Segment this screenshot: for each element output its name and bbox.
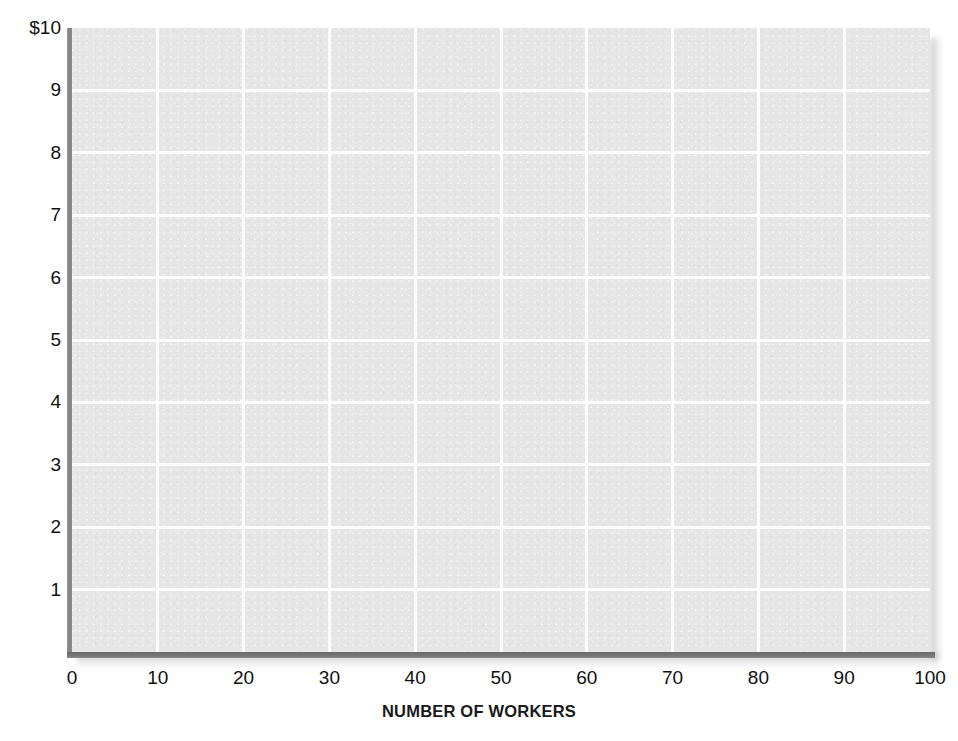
gridline-vertical	[156, 28, 159, 652]
x-axis-tick-label: 0	[32, 668, 112, 687]
y-axis-tick-label: 3	[1, 455, 61, 474]
y-axis-title: WAGE RATE (dollars per hour)	[0, 0, 34, 741]
y-axis-tick-label: 9	[1, 80, 61, 99]
y-axis-tick-label: 7	[1, 205, 61, 224]
x-axis-tick-label: 70	[633, 668, 713, 687]
x-axis-tick-label: 40	[375, 668, 455, 687]
x-axis-tick-label: 20	[204, 668, 284, 687]
x-axis-tick-label: 30	[289, 668, 369, 687]
x-axis-tick-label: 50	[461, 668, 541, 687]
y-axis-tick-label: 5	[1, 330, 61, 349]
gridline-vertical	[500, 28, 503, 652]
x-axis-tick-label: 60	[547, 668, 627, 687]
gridline-vertical	[585, 28, 588, 652]
gridline-vertical	[414, 28, 417, 652]
y-axis-line	[67, 28, 72, 653]
gridline-vertical	[671, 28, 674, 652]
plot-area[interactable]	[72, 28, 930, 652]
x-axis-tick-label: 80	[718, 668, 798, 687]
x-axis-tick-label: 90	[804, 668, 884, 687]
gridline-vertical	[242, 28, 245, 652]
y-axis-tick-label: 1	[1, 580, 61, 599]
gridline-vertical	[843, 28, 846, 652]
y-axis-tick-label: $10	[1, 18, 61, 37]
plot-shadow-right	[930, 38, 944, 658]
y-axis-tick-label: 2	[1, 517, 61, 536]
y-axis-tick-label: 6	[1, 268, 61, 287]
gridline-vertical	[757, 28, 760, 652]
gridline-vertical	[328, 28, 331, 652]
x-axis-tick-label: 100	[890, 668, 958, 687]
x-axis-title: NUMBER OF WORKERS	[0, 702, 958, 721]
y-axis-tick-label: 4	[1, 392, 61, 411]
y-axis-tick-label: 8	[1, 143, 61, 162]
x-axis-tick-label: 10	[118, 668, 198, 687]
plot-frame	[67, 28, 935, 660]
x-axis-line	[67, 652, 935, 658]
chart-figure: WAGE RATE (dollars per hour) 123456789$1…	[0, 0, 958, 741]
